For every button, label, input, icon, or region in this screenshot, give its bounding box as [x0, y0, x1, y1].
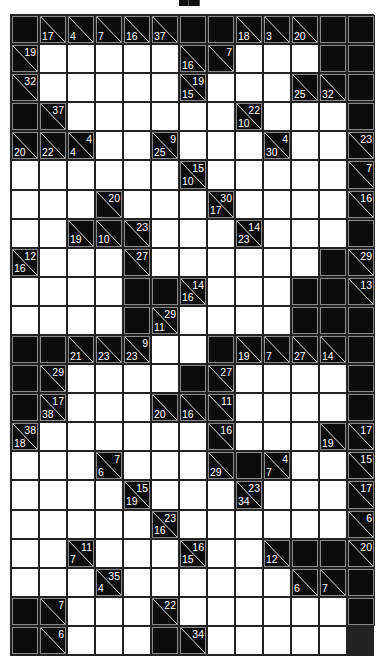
entry-cell[interactable] — [95, 597, 123, 626]
entry-cell[interactable] — [151, 451, 179, 480]
entry-cell[interactable] — [123, 364, 151, 393]
entry-cell[interactable] — [319, 131, 347, 160]
entry-cell[interactable] — [11, 219, 39, 248]
entry-cell[interactable] — [67, 160, 95, 189]
entry-cell[interactable] — [39, 219, 67, 248]
entry-cell[interactable] — [207, 248, 235, 277]
entry-cell[interactable] — [291, 597, 319, 626]
entry-cell[interactable] — [207, 102, 235, 131]
entry-cell[interactable] — [235, 131, 263, 160]
entry-cell[interactable] — [123, 131, 151, 160]
entry-cell[interactable] — [207, 73, 235, 102]
entry-cell[interactable] — [179, 306, 207, 335]
entry-cell[interactable] — [151, 160, 179, 189]
entry-cell[interactable] — [319, 480, 347, 509]
entry-cell[interactable] — [95, 102, 123, 131]
entry-cell[interactable] — [39, 73, 67, 102]
entry-cell[interactable] — [123, 451, 151, 480]
entry-cell[interactable] — [67, 277, 95, 306]
entry-cell[interactable] — [235, 160, 263, 189]
entry-cell[interactable] — [319, 393, 347, 422]
entry-cell[interactable] — [263, 626, 291, 655]
entry-cell[interactable] — [179, 568, 207, 597]
entry-cell[interactable] — [11, 539, 39, 568]
entry-cell[interactable] — [151, 73, 179, 102]
entry-cell[interactable] — [291, 219, 319, 248]
entry-cell[interactable] — [235, 597, 263, 626]
entry-cell[interactable] — [291, 364, 319, 393]
entry-cell[interactable] — [291, 44, 319, 73]
entry-cell[interactable] — [11, 510, 39, 539]
entry-cell[interactable] — [179, 597, 207, 626]
entry-cell[interactable] — [151, 248, 179, 277]
entry-cell[interactable] — [39, 190, 67, 219]
entry-cell[interactable] — [67, 510, 95, 539]
entry-cell[interactable] — [291, 131, 319, 160]
entry-cell[interactable] — [263, 422, 291, 451]
entry-cell[interactable] — [319, 219, 347, 248]
entry-cell[interactable] — [95, 160, 123, 189]
entry-cell[interactable] — [291, 422, 319, 451]
entry-cell[interactable] — [123, 539, 151, 568]
entry-cell[interactable] — [11, 160, 39, 189]
entry-cell[interactable] — [67, 597, 95, 626]
entry-cell[interactable] — [291, 510, 319, 539]
entry-cell[interactable] — [207, 219, 235, 248]
entry-cell[interactable] — [151, 102, 179, 131]
entry-cell[interactable] — [291, 190, 319, 219]
entry-cell[interactable] — [123, 44, 151, 73]
entry-cell[interactable] — [179, 480, 207, 509]
entry-cell[interactable] — [263, 480, 291, 509]
entry-cell[interactable] — [11, 277, 39, 306]
entry-cell[interactable] — [67, 451, 95, 480]
entry-cell[interactable] — [95, 393, 123, 422]
entry-cell[interactable] — [39, 539, 67, 568]
entry-cell[interactable] — [123, 422, 151, 451]
entry-cell[interactable] — [95, 364, 123, 393]
entry-cell[interactable] — [319, 190, 347, 219]
entry-cell[interactable] — [235, 364, 263, 393]
entry-cell[interactable] — [11, 480, 39, 509]
entry-cell[interactable] — [235, 422, 263, 451]
entry-cell[interactable] — [179, 451, 207, 480]
entry-cell[interactable] — [263, 597, 291, 626]
entry-cell[interactable] — [207, 568, 235, 597]
entry-cell[interactable] — [263, 44, 291, 73]
entry-cell[interactable] — [319, 160, 347, 189]
entry-cell[interactable] — [39, 451, 67, 480]
entry-cell[interactable] — [207, 626, 235, 655]
entry-cell[interactable] — [151, 219, 179, 248]
entry-cell[interactable] — [123, 393, 151, 422]
entry-cell[interactable] — [291, 451, 319, 480]
entry-cell[interactable] — [263, 277, 291, 306]
entry-cell[interactable] — [319, 597, 347, 626]
entry-cell[interactable] — [11, 451, 39, 480]
entry-cell[interactable] — [11, 568, 39, 597]
entry-cell[interactable] — [235, 539, 263, 568]
entry-cell[interactable] — [263, 160, 291, 189]
entry-cell[interactable] — [67, 102, 95, 131]
entry-cell[interactable] — [67, 393, 95, 422]
entry-cell[interactable] — [263, 190, 291, 219]
entry-cell[interactable] — [95, 248, 123, 277]
entry-cell[interactable] — [67, 190, 95, 219]
entry-cell[interactable] — [67, 422, 95, 451]
entry-cell[interactable] — [235, 44, 263, 73]
entry-cell[interactable] — [67, 626, 95, 655]
entry-cell[interactable] — [179, 102, 207, 131]
entry-cell[interactable] — [151, 44, 179, 73]
entry-cell[interactable] — [291, 248, 319, 277]
entry-cell[interactable] — [151, 335, 179, 364]
entry-cell[interactable] — [263, 393, 291, 422]
entry-cell[interactable] — [263, 248, 291, 277]
entry-cell[interactable] — [235, 626, 263, 655]
entry-cell[interactable] — [151, 568, 179, 597]
entry-cell[interactable] — [319, 451, 347, 480]
entry-cell[interactable] — [123, 102, 151, 131]
entry-cell[interactable] — [151, 364, 179, 393]
entry-cell[interactable] — [39, 44, 67, 73]
entry-cell[interactable] — [151, 422, 179, 451]
entry-cell[interactable] — [207, 131, 235, 160]
entry-cell[interactable] — [235, 510, 263, 539]
entry-cell[interactable] — [179, 422, 207, 451]
